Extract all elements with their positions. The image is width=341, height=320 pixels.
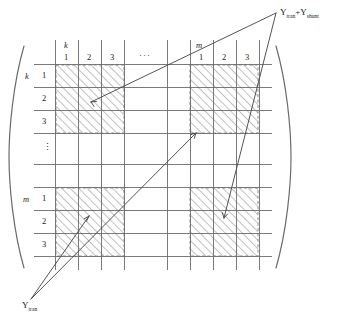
annotation-arrow-layer xyxy=(0,0,341,320)
column-header-m-3: 3 xyxy=(245,53,249,62)
figure-canvas: k m 1 2 3 ··· 1 2 3 k m 1 2 3 ⋮ 1 2 3 Yt… xyxy=(0,0,341,320)
row-header-m-1: 1 xyxy=(42,194,46,203)
annotation-ysum-term1-sub: tran xyxy=(287,13,296,19)
column-header-m-2: 2 xyxy=(222,53,226,62)
column-group-label-k: k xyxy=(64,41,68,50)
column-header-k-2: 2 xyxy=(87,53,91,62)
row-header-k-3: 3 xyxy=(42,117,46,126)
row-group-label-m: m xyxy=(23,195,29,204)
annotation-ysum-term2-sub: shunt xyxy=(307,13,319,19)
arrow-ytran-to-block-k-m xyxy=(31,133,196,299)
column-header-m-1: 1 xyxy=(199,53,203,62)
column-header-k-1: 1 xyxy=(64,53,68,62)
annotation-y-trans: Ytran xyxy=(22,301,37,312)
arrow-ytran-to-block-m-k xyxy=(31,216,89,299)
row-header-k-2: 2 xyxy=(42,94,46,103)
arrow-ysum-to-block-m-m xyxy=(224,13,276,218)
row-header-m-3: 3 xyxy=(42,240,46,249)
row-header-k-1: 1 xyxy=(42,71,46,80)
row-header-m-2: 2 xyxy=(42,217,46,226)
row-group-label-k: k xyxy=(25,72,29,81)
arrowhead-block-k-k xyxy=(91,101,97,106)
column-header-k-3: 3 xyxy=(110,53,114,62)
column-header-ellipsis: ··· xyxy=(139,51,151,60)
annotation-y-trans-plus-y-shunt: Ytran+Yshunt xyxy=(280,8,319,19)
column-group-label-m: m xyxy=(196,41,202,50)
row-header-ellipsis: ⋮ xyxy=(43,143,52,152)
annotation-ytran-sub: tran xyxy=(29,306,38,312)
